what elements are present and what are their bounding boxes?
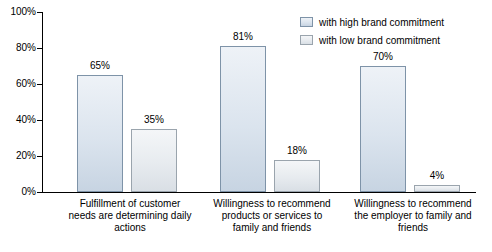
x-category-label-1-line-3: actions	[55, 222, 205, 234]
y-tick-label-100: 100%	[0, 7, 36, 17]
bar-value-high-3: 70%	[360, 51, 406, 62]
x-category-label-3-line-2: the employer to family and	[338, 210, 488, 222]
bar-value-low-2: 18%	[274, 145, 320, 156]
legend-item-high[interactable]: with high brand commitment	[300, 14, 444, 30]
bar-high-1[interactable]	[77, 75, 123, 192]
x-category-label-1: Fulfillment of customer needs are determ…	[55, 198, 205, 234]
x-category-label-2-line-1: Willingness to recommend	[197, 198, 347, 210]
x-category-label-3-line-1: Willingness to recommend	[338, 198, 488, 210]
bar-value-high-1: 65%	[77, 60, 123, 71]
legend: with high brand commitment with low bran…	[300, 14, 444, 50]
bar-high-2[interactable]	[220, 46, 266, 192]
legend-swatch-icon-low	[300, 35, 313, 45]
legend-swatch-icon-high	[300, 17, 313, 27]
x-category-label-3-line-3: friends	[338, 222, 488, 234]
y-tick-label-80: 80%	[0, 43, 36, 53]
bar-low-1[interactable]	[131, 129, 177, 192]
x-category-label-2-line-3: family and friends	[197, 222, 347, 234]
y-tick-label-60: 60%	[0, 79, 36, 89]
y-tick-label-0: 0%	[0, 187, 36, 197]
x-category-label-2: Willingness to recommend products or ser…	[197, 198, 347, 234]
bar-value-low-3: 4%	[414, 170, 460, 181]
bar-low-3[interactable]	[414, 185, 460, 192]
legend-label-high: with high brand commitment	[319, 17, 444, 28]
x-category-label-2-line-2: products or services to	[197, 210, 347, 222]
legend-item-low[interactable]: with low brand commitment	[300, 32, 444, 48]
x-axis-line	[42, 192, 476, 193]
y-tick-label-20: 20%	[0, 151, 36, 161]
bar-high-3[interactable]	[360, 66, 406, 192]
legend-label-low: with low brand commitment	[319, 35, 440, 46]
x-category-label-1-line-1: Fulfillment of customer	[55, 198, 205, 210]
bar-chart: 100% 80% 60% 40% 20% 0% 65% 35% 81% 18% …	[0, 0, 492, 252]
x-category-label-1-line-2: needs are determining daily	[55, 210, 205, 222]
bar-low-2[interactable]	[274, 160, 320, 192]
x-category-label-3: Willingness to recommend the employer to…	[338, 198, 488, 234]
y-tick-label-40: 40%	[0, 115, 36, 125]
bar-value-high-2: 81%	[220, 31, 266, 42]
bar-value-low-1: 35%	[131, 114, 177, 125]
